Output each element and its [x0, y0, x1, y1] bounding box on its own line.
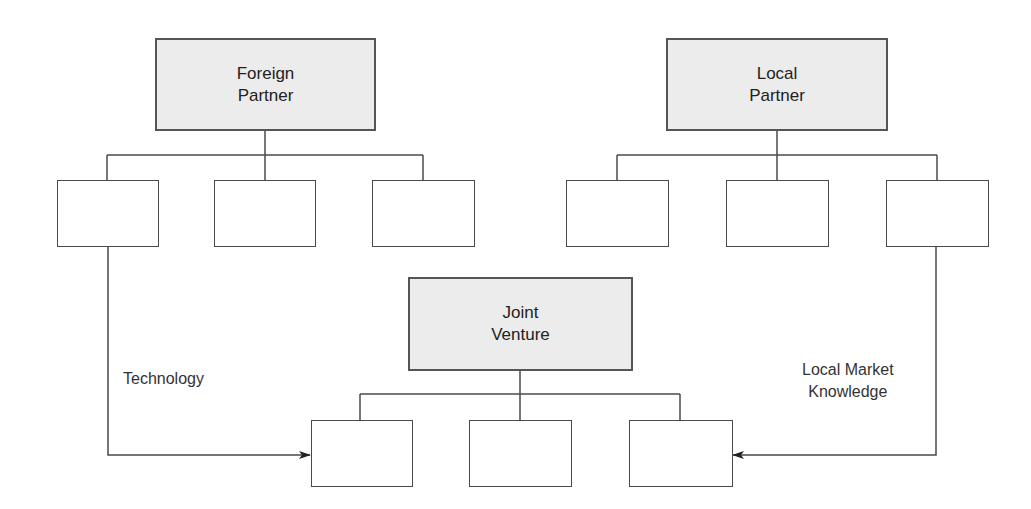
foreign-partner-box: Foreign Partner — [155, 38, 376, 131]
local-partner-label: Local Partner — [668, 63, 886, 107]
joint-venture-label: Joint Venture — [410, 302, 631, 346]
technology-arrow — [108, 246, 310, 455]
foreign-partner-label-line1: Foreign — [157, 63, 374, 85]
local-partner-box: Local Partner — [666, 38, 888, 131]
joint-venture-box: Joint Venture — [408, 277, 633, 371]
local-partner-label-line1: Local — [668, 63, 886, 85]
local-child-box-3 — [886, 180, 989, 247]
foreign-partner-label-line2: Partner — [157, 85, 374, 107]
joint-venture-label-line2: Venture — [410, 324, 631, 346]
local-child-box-1 — [566, 180, 669, 247]
foreign-child-box-1 — [57, 180, 159, 247]
foreign-partner-label: Foreign Partner — [157, 63, 374, 107]
technology-label: Technology — [123, 368, 204, 390]
jv-child-box-3 — [629, 420, 733, 487]
joint-venture-label-line1: Joint — [410, 302, 631, 324]
local-child-box-2 — [726, 180, 829, 247]
jv-child-box-2 — [469, 420, 572, 487]
foreign-child-box-2 — [214, 180, 316, 247]
local-market-knowledge-line1: Local Market — [802, 359, 894, 381]
jv-child-box-1 — [311, 420, 413, 487]
local-partner-label-line2: Partner — [668, 85, 886, 107]
foreign-child-box-3 — [372, 180, 475, 247]
local-market-knowledge-arrow — [733, 246, 936, 455]
local-market-knowledge-line2: Knowledge — [802, 381, 894, 403]
local-market-knowledge-label: Local Market Knowledge — [802, 359, 894, 403]
